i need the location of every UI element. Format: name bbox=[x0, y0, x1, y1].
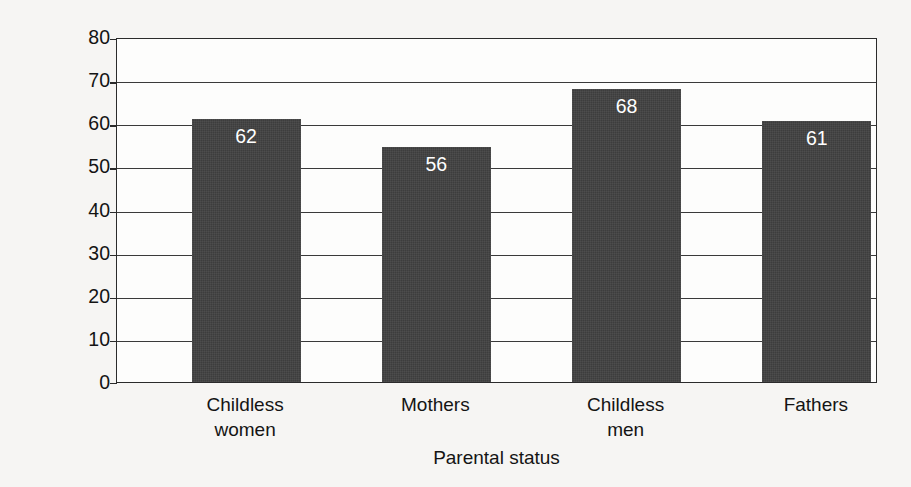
y-tick-label: 70 bbox=[60, 71, 110, 91]
x-tick-label: Mothers bbox=[335, 392, 535, 417]
x-tick-label-line: Childless bbox=[145, 392, 345, 417]
y-tick-label: 40 bbox=[60, 201, 110, 221]
x-tick-label: Fathers bbox=[716, 392, 911, 417]
x-tick-label-line: women bbox=[145, 417, 345, 442]
x-tick-label: Childlesswomen bbox=[145, 392, 345, 442]
bar: 56 bbox=[382, 147, 491, 382]
x-tick-label-line: Childless bbox=[526, 392, 726, 417]
y-tick-label: 60 bbox=[60, 115, 110, 135]
y-tickmark bbox=[110, 168, 117, 169]
y-tickmark bbox=[110, 255, 117, 256]
x-axis-tick-labels: ChildlesswomenMothersChildlessmenFathers bbox=[116, 392, 877, 448]
x-tick-label-line: Fathers bbox=[716, 392, 911, 417]
y-tick-label: 0 bbox=[60, 373, 110, 393]
bar-value-label: 56 bbox=[382, 155, 491, 175]
bar-value-label: 61 bbox=[762, 129, 871, 149]
bar: 62 bbox=[192, 119, 301, 382]
y-axis-tick-labels: 01020304050607080 bbox=[60, 38, 110, 383]
y-tickmark bbox=[110, 82, 117, 83]
y-tickmark bbox=[110, 341, 117, 342]
y-tickmark bbox=[110, 39, 117, 40]
x-tick-label-line: men bbox=[526, 417, 726, 442]
x-tick-label: Childlessmen bbox=[526, 392, 726, 442]
y-tick-label: 20 bbox=[60, 287, 110, 307]
bar-value-label: 62 bbox=[192, 127, 301, 147]
bar-series: 62566861 bbox=[117, 39, 876, 382]
y-tick-label: 30 bbox=[60, 244, 110, 264]
y-tick-label: 10 bbox=[60, 330, 110, 350]
y-tickmark bbox=[110, 383, 117, 384]
bar-value-label: 68 bbox=[572, 97, 681, 117]
bar-chart-figure: Hours per week 01020304050607080 6256686… bbox=[0, 0, 911, 487]
y-tick-label: 80 bbox=[60, 28, 110, 48]
y-tickmark bbox=[110, 212, 117, 213]
y-tickmark bbox=[110, 298, 117, 299]
y-tickmark bbox=[110, 125, 117, 126]
plot-area: 62566861 bbox=[116, 38, 877, 383]
x-tick-label-line: Mothers bbox=[335, 392, 535, 417]
y-tick-label: 50 bbox=[60, 158, 110, 178]
x-axis-title: Parental status bbox=[116, 447, 877, 469]
bar: 61 bbox=[762, 121, 871, 382]
bar: 68 bbox=[572, 89, 681, 382]
